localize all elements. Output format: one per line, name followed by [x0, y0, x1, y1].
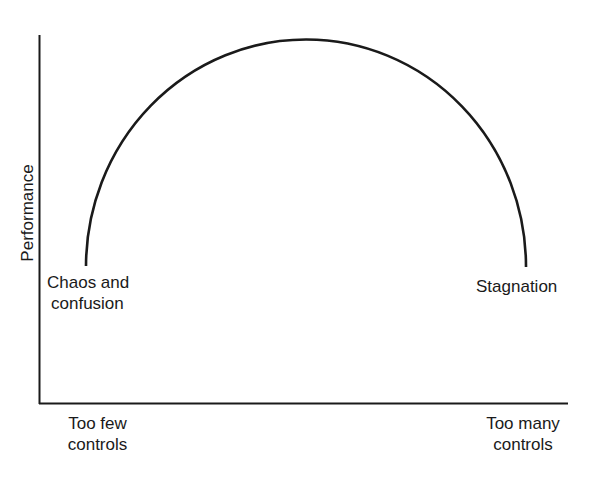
annotation-chaos-and-confusion: Chaos and confusion [47, 272, 129, 314]
x-axis-right-label: Too many controls [476, 413, 570, 455]
x-label-line: Too many [476, 413, 570, 434]
performance-control-diagram: Performance Chaos and confusion Stagnati… [0, 0, 590, 480]
performance-curve [86, 39, 526, 267]
y-axis-label: Performance [18, 164, 38, 261]
plot-area [0, 0, 590, 480]
x-label-line: controls [476, 434, 570, 455]
x-label-line: controls [55, 434, 140, 455]
x-label-line: Too few [55, 413, 140, 434]
annotation-line: Chaos and [47, 272, 129, 293]
annotation-stagnation: Stagnation [476, 276, 557, 297]
annotation-line: confusion [47, 293, 129, 314]
x-axis-left-label: Too few controls [55, 413, 140, 455]
